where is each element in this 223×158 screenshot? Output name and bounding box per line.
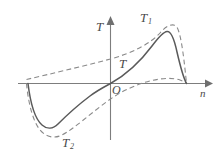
curve-T2-label: T2 (62, 136, 74, 151)
horizontal-axis-arrowhead (205, 80, 213, 88)
figure-container: T n O T T1 T2 (0, 0, 223, 158)
curve-T1-label: T1 (140, 11, 152, 26)
curve-T1-label-main: T (140, 10, 147, 25)
curve-T-label: T (119, 57, 126, 70)
curve-T1-label-subscript: 1 (148, 17, 152, 26)
origin-label: O (112, 84, 121, 96)
curve-T-solid (28, 31, 187, 128)
curve-T2-label-subscript: 2 (70, 142, 74, 151)
vertical-axis-arrowhead (107, 16, 115, 25)
horizontal-axis-label: n (200, 88, 206, 99)
curve-T2-label-main: T (62, 135, 69, 150)
curve-diagram-svg (0, 0, 223, 158)
vertical-axis-label: T (96, 20, 103, 33)
